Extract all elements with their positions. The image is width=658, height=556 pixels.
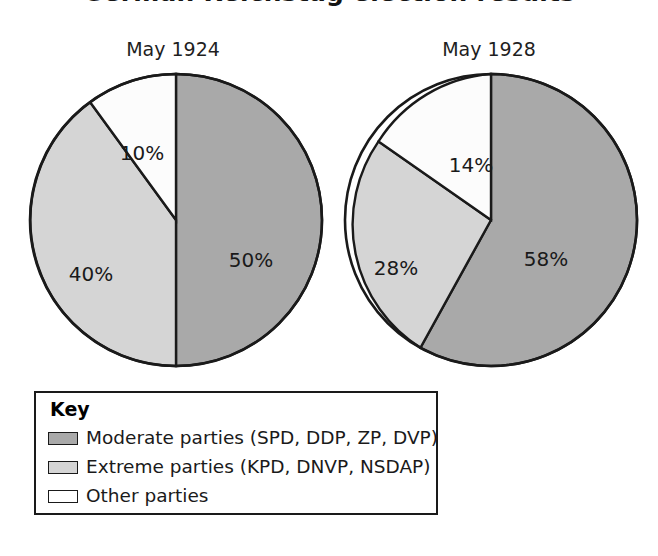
- pie-1-slice-moderate: [176, 74, 322, 366]
- legend-item-extreme: Extreme parties (KPD, DNVP, NSDAP): [48, 453, 428, 482]
- extreme-swatch-icon: [48, 461, 78, 474]
- other-swatch-icon: [48, 490, 78, 503]
- legend-label-other: Other parties: [86, 487, 209, 506]
- legend-title: Key: [50, 398, 90, 420]
- chart-caption-1: May 1924: [43, 38, 303, 60]
- pie-1-label-extreme: 40%: [69, 262, 113, 286]
- pie-chart-figure: German Reichstag election results May 19…: [0, 0, 658, 556]
- pie-1: 50% 40% 10%: [28, 72, 324, 368]
- pie-1-label-moderate: 50%: [229, 248, 273, 272]
- moderate-swatch-icon: [48, 432, 78, 445]
- pie-2-label-moderate: 58%: [524, 247, 568, 271]
- pie-2-label-extreme: 28%: [374, 256, 418, 280]
- legend-item-other: Other parties: [48, 482, 428, 511]
- pie-1-svg: [28, 72, 324, 368]
- legend-label-extreme: Extreme parties (KPD, DNVP, NSDAP): [86, 458, 430, 477]
- pie-2-svg: [343, 72, 639, 368]
- legend-label-moderate: Moderate parties (SPD, DDP, ZP, DVP): [86, 429, 438, 448]
- figure-title: German Reichstag election results: [0, 0, 658, 7]
- pie-1-label-other: 10%: [120, 141, 164, 165]
- chart-may-1928: May 1928 58% 28% 14%: [359, 38, 619, 368]
- legend-rows: Moderate parties (SPD, DDP, ZP, DVP) Ext…: [48, 424, 428, 511]
- pie-2-label-other: 14%: [449, 153, 493, 177]
- pie-2: 58% 28% 14%: [343, 72, 639, 368]
- chart-caption-2: May 1928: [359, 38, 619, 60]
- legend-item-moderate: Moderate parties (SPD, DDP, ZP, DVP): [48, 424, 428, 453]
- chart-may-1924: May 1924 50% 40% 10%: [43, 38, 303, 368]
- legend: Key Moderate parties (SPD, DDP, ZP, DVP)…: [34, 391, 438, 515]
